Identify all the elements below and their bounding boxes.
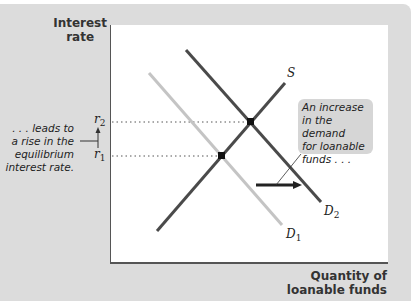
demand-increase-callout: An increase in the demand for loanable f…: [298, 99, 373, 154]
label-d2: D2: [324, 204, 339, 220]
callout-pointer-line: [276, 154, 301, 185]
equilibrium-point-e1: [218, 152, 225, 159]
label-s: S: [287, 66, 295, 80]
rate-rise-arrow-head-icon: [96, 127, 101, 133]
label-d2-base: D: [324, 204, 334, 218]
shift-arrow-head-icon: [293, 181, 302, 189]
demand-curve-d1: [149, 73, 282, 225]
callout-line: in the demand: [302, 114, 369, 140]
equilibrium-point-e2: [247, 118, 254, 125]
label-d1: D1: [286, 227, 301, 243]
callout-line: An increase: [302, 101, 369, 114]
label-d1-sub: 1: [296, 233, 302, 243]
callout-line: for loanable: [302, 140, 369, 153]
callout-line: funds . . .: [302, 153, 369, 166]
label-d2-sub: 2: [334, 210, 340, 220]
label-d1-base: D: [286, 227, 296, 241]
